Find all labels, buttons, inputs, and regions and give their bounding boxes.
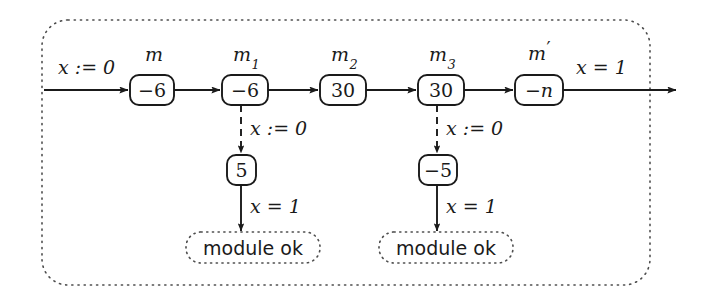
branch-left-dashed-label: x := 0 — [250, 119, 307, 138]
terminal-box-left — [186, 232, 320, 263]
node-name-m2: m2 — [331, 45, 357, 69]
branch-box-left — [227, 155, 256, 185]
node-name-m1: m1 — [233, 45, 259, 69]
node-name-m: m — [145, 45, 163, 64]
node-name-m3: m3 — [429, 45, 455, 69]
node-box-m — [130, 75, 174, 105]
node-box-m1 — [222, 75, 268, 105]
branch-right-dashed-label: x := 0 — [446, 119, 503, 138]
branch-right-solid-label: x = 1 — [446, 197, 497, 216]
branch-left-solid-label: x = 1 — [250, 197, 301, 216]
node-name-mprime: m′ — [528, 44, 550, 63]
edge-label-entry: x := 0 — [58, 58, 115, 77]
branch-box-right — [419, 155, 457, 185]
terminal-box-right — [379, 232, 513, 263]
edge-label-exit: x = 1 — [576, 58, 627, 77]
diagram-canvas: x := 0 x = 1 m m1 m2 m3 m′ −6 −6 30 30 −… — [0, 0, 701, 302]
node-box-m3 — [418, 75, 464, 105]
node-box-m2 — [320, 75, 366, 105]
node-box-mprime — [515, 75, 563, 105]
